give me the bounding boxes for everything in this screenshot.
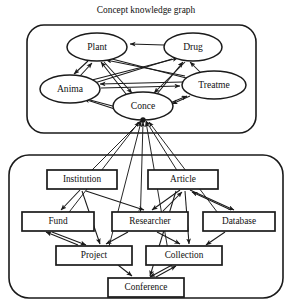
- concept-knowledge-graph-figure: Concept knowledge graph: [0, 0, 292, 308]
- node-institution-label: Institution: [63, 174, 102, 184]
- node-project-label: Project: [81, 250, 108, 260]
- node-database[interactable]: Database: [203, 212, 275, 231]
- node-drug-label: Drug: [183, 41, 203, 52]
- node-concept-label: Conce: [131, 100, 156, 111]
- node-article[interactable]: Article: [148, 170, 218, 189]
- node-treatment[interactable]: Treatme: [182, 71, 246, 99]
- node-drug[interactable]: Drug: [164, 33, 222, 61]
- node-animal[interactable]: Anima: [40, 75, 100, 103]
- node-database-label: Database: [222, 216, 256, 226]
- node-researcher-label: Researcher: [129, 216, 171, 226]
- node-researcher[interactable]: Researcher: [112, 212, 188, 231]
- node-fund[interactable]: Fund: [22, 212, 94, 231]
- node-conference[interactable]: Conference: [108, 278, 184, 297]
- node-article-label: Article: [170, 174, 196, 184]
- node-animal-label: Anima: [57, 83, 84, 94]
- node-treatment-label: Treatme: [198, 79, 230, 90]
- node-conference-label: Conference: [125, 282, 168, 292]
- node-plant[interactable]: Plant: [67, 33, 127, 61]
- entity-layer-nodes: Institution Article Fund Researcher Data…: [22, 170, 275, 297]
- node-fund-label: Fund: [48, 216, 67, 226]
- node-collection-label: Collection: [165, 250, 204, 260]
- node-plant-label: Plant: [87, 41, 107, 52]
- page-title: Concept knowledge graph: [97, 5, 196, 15]
- node-project[interactable]: Project: [56, 246, 132, 265]
- diagram-canvas: Concept knowledge graph: [0, 0, 292, 308]
- concept-layer-nodes: Plant Drug Anima Treatme Conce: [40, 33, 246, 120]
- node-collection[interactable]: Collection: [146, 246, 222, 265]
- node-concept[interactable]: Conce: [113, 92, 173, 120]
- node-institution[interactable]: Institution: [47, 170, 117, 189]
